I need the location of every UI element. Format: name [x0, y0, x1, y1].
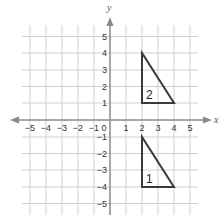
x-axis-right-arrow-icon — [203, 117, 212, 124]
triangle-1-label: 1 — [146, 172, 153, 186]
svg-text:3: 3 — [155, 123, 160, 133]
svg-text:−3: −3 — [97, 165, 107, 175]
svg-text:1: 1 — [102, 98, 107, 108]
svg-text:−5: −5 — [97, 199, 107, 209]
svg-text:−2: −2 — [73, 123, 83, 133]
svg-text:4: 4 — [171, 123, 176, 133]
y-axis-label: y — [106, 2, 112, 13]
x-tick-labels: −5 −4 −3 −2 −1 0 1 2 3 4 5 — [25, 123, 193, 133]
svg-text:2: 2 — [102, 82, 107, 92]
svg-text:5: 5 — [187, 123, 192, 133]
svg-text:−2: −2 — [97, 149, 107, 159]
coordinate-plane: x y −5 −4 −3 −2 −1 0 1 2 3 4 5 5 4 3 2 1… — [0, 0, 221, 215]
svg-text:4: 4 — [102, 48, 107, 58]
axes — [10, 17, 212, 215]
x-axis-left-arrow-icon — [10, 117, 19, 124]
svg-text:5: 5 — [102, 32, 107, 42]
x-axis-label: x — [213, 114, 219, 125]
triangle-2-label: 2 — [146, 88, 153, 102]
svg-text:−1: −1 — [97, 132, 107, 142]
svg-text:1: 1 — [123, 123, 128, 133]
svg-text:−5: −5 — [25, 123, 35, 133]
svg-text:−3: −3 — [57, 123, 67, 133]
svg-text:−4: −4 — [41, 123, 51, 133]
svg-text:−4: −4 — [97, 182, 107, 192]
svg-text:2: 2 — [139, 123, 144, 133]
y-axis-arrow-icon — [107, 17, 114, 26]
svg-text:3: 3 — [102, 65, 107, 75]
